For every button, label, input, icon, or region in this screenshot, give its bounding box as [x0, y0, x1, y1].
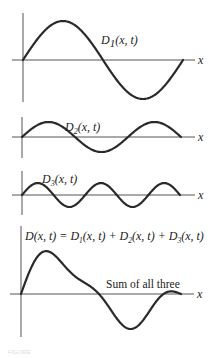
label-d2: D2(x, t)	[64, 120, 100, 136]
x-axis-label: x	[197, 188, 204, 202]
panel-sum: D(x, t) = D1(x, t) + D2(x, t) + D3(x, t)…	[10, 226, 204, 337]
superposition-figure: D1(x, t) x D2(x, t) x D3(x, t) x D(x, t)…	[0, 0, 211, 358]
wave-sum	[21, 251, 181, 329]
label-d1: D1(x, t)	[100, 33, 138, 49]
sum-equation: D(x, t) = D1(x, t) + D2(x, t) + D3(x, t)	[24, 229, 204, 245]
figure-caption: FIGURE	[8, 349, 31, 355]
x-axis-label: x	[196, 287, 203, 301]
panel-d1: D1(x, t) x	[12, 13, 204, 102]
label-d3: D3(x, t)	[41, 172, 77, 188]
x-axis-label: x	[197, 53, 204, 67]
x-axis-label: x	[197, 130, 204, 144]
panel-d2: D2(x, t) x	[12, 117, 204, 158]
panel-d3: D3(x, t) x	[12, 171, 204, 215]
sum-annotation: Sum of all three	[106, 278, 180, 290]
